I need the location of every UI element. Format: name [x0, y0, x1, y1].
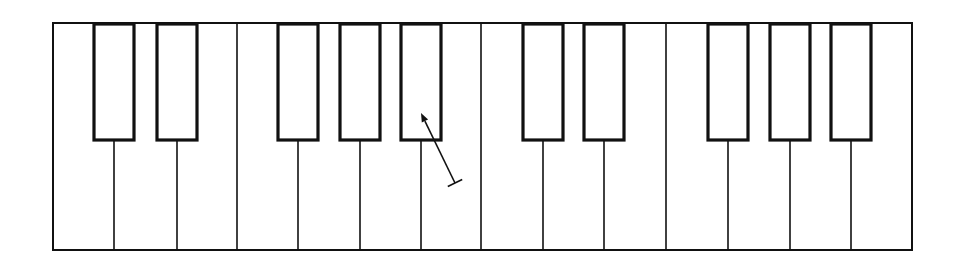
- black-key-a-sharp: [401, 24, 441, 140]
- black-key-a-sharp: [831, 24, 871, 140]
- black-key-f-sharp: [708, 24, 748, 140]
- black-key-f-sharp: [278, 24, 318, 140]
- black-key-c-sharp: [94, 24, 134, 140]
- black-key-d-sharp: [157, 24, 197, 140]
- black-key-c-sharp: [523, 24, 563, 140]
- piano-keyboard-diagram: [0, 0, 958, 264]
- black-key-d-sharp: [584, 24, 624, 140]
- black-key-g-sharp: [770, 24, 810, 140]
- black-key-g-sharp: [340, 24, 380, 140]
